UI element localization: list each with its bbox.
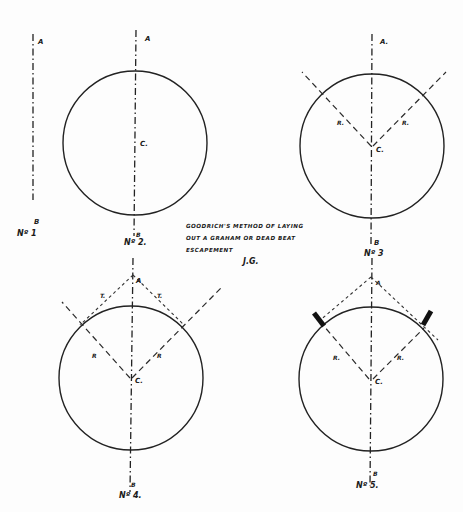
- label-tangent-right: T.: [157, 292, 162, 299]
- label-radius-right: R: [157, 352, 162, 359]
- axis-line-ab: [370, 258, 372, 486]
- figure-4: A T. T. R R C. B Nº 4.: [59, 258, 221, 500]
- tangent-right: [371, 277, 438, 340]
- label-center: C.: [375, 378, 383, 386]
- figure-number: Nº 4.: [119, 491, 142, 500]
- signature: J.G.: [241, 257, 259, 266]
- caption-line-2: OUT A GRAHAM OR DEAD BEAT: [186, 235, 296, 241]
- figure-5: A R. R. C. B Nº 5.: [299, 258, 443, 490]
- figure-number: Nº 5.: [356, 481, 379, 490]
- label-a: A: [375, 279, 381, 286]
- figure-1: A B Nº 1: [17, 34, 43, 238]
- caption-block: GOODRICH'S METHOD OF LAYING OUT A GRAHAM…: [186, 223, 304, 266]
- radius-right: [373, 72, 446, 146]
- figure-number: Nº 2.: [124, 238, 147, 247]
- axis-line-ab: [371, 34, 372, 245]
- tangent-left: [80, 275, 133, 325]
- label-center: C.: [376, 146, 384, 154]
- pallet-left: [314, 313, 324, 326]
- caption-line-3: ESCAPEMENT: [186, 247, 234, 253]
- label-radius-left: R: [92, 352, 97, 359]
- axis-line-ab: [130, 258, 133, 492]
- label-a: A: [135, 277, 141, 285]
- label-center: C.: [135, 377, 143, 385]
- label-radius-left: R.: [333, 354, 340, 361]
- label-a: A: [144, 35, 150, 43]
- tangent-left: [318, 277, 371, 322]
- figure-3: A. C. R. R. B Nº 3: [300, 34, 446, 258]
- label-tangent-left: T.: [100, 292, 105, 299]
- label-radius-right: R.: [402, 119, 409, 126]
- figure-number: Nº 3: [364, 249, 384, 258]
- drawing-page: A B Nº 1 A C. B Nº 2. A. C. R. R. B Nº 3…: [0, 0, 463, 512]
- label-radius-left: R.: [337, 119, 344, 126]
- label-b: B: [374, 239, 379, 247]
- figure-2: A C. B Nº 2.: [63, 30, 207, 247]
- label-b: B: [34, 218, 39, 226]
- escapement-diagram: A B Nº 1 A C. B Nº 2. A. C. R. R. B Nº 3…: [0, 0, 463, 512]
- label-a: A.: [379, 38, 388, 46]
- label-b: B: [131, 481, 136, 488]
- caption-line-1: GOODRICH'S METHOD OF LAYING: [186, 223, 304, 229]
- radius-left: [323, 325, 369, 379]
- label-b: B: [373, 470, 378, 477]
- axis-line-ab: [134, 30, 136, 236]
- figure-number: Nº 1: [17, 229, 37, 238]
- label-radius-right: R.: [397, 354, 404, 361]
- radius-left: [62, 302, 130, 378]
- label-center: C.: [140, 140, 148, 148]
- pallet-right: [423, 311, 431, 325]
- label-a: A: [37, 38, 43, 46]
- label-b: B: [136, 231, 141, 238]
- radius-right: [132, 288, 221, 378]
